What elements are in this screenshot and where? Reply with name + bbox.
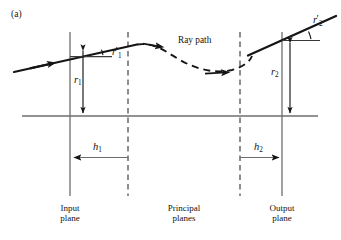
h2-label: h2: [254, 141, 263, 154]
ray-path-label: Ray path: [178, 35, 211, 45]
r1-subscript: 1: [78, 79, 82, 87]
input-plane-label-line1: Input: [61, 203, 80, 213]
output-plane-label: Output plane: [252, 203, 312, 223]
principal-planes-label-line2: planes: [152, 213, 216, 223]
input-plane-label-line2: plane: [40, 213, 100, 223]
r1-prime-subscript: 1: [118, 52, 122, 60]
r2-prime-subscript: 2: [319, 20, 323, 28]
r2-subscript: 2: [275, 71, 279, 79]
principal-planes-label-line1: Principal: [168, 203, 201, 213]
ray-path-curve: [137, 44, 252, 71]
h1-label: h1: [93, 141, 102, 154]
panel-tag: (a): [11, 9, 22, 20]
output-plane-label-line2: plane: [252, 213, 312, 223]
figure-root: (a) Ray path r′1 r1 r′2 r2 h1 h2 Input p…: [0, 0, 341, 240]
output-angle-arc: [309, 32, 312, 40]
ray-path-arrow-2: [205, 72, 226, 73]
input-plane-label: Input plane: [40, 203, 100, 223]
incoming-ray-arrow: [30, 64, 52, 69]
r1-prime-label: r′1: [112, 45, 121, 60]
r1-label: r1: [74, 74, 82, 87]
outgoing-ray: [248, 16, 336, 56]
r2-prime-label: r′2: [313, 13, 322, 28]
principal-planes-label: Principal planes: [152, 203, 216, 223]
output-plane-label-line1: Output: [269, 203, 294, 213]
h2-subscript: 2: [259, 146, 263, 154]
r2-label: r2: [271, 66, 279, 79]
h1-subscript: 1: [98, 146, 102, 154]
